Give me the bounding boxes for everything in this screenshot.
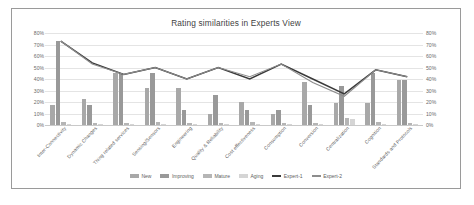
legend-label: Improving [172, 173, 194, 179]
y-axis-tick-label: 50% [426, 65, 436, 71]
y-axis-tick-label: 60% [34, 53, 44, 59]
x-axis-label: Centralization [327, 127, 352, 153]
y-axis-tick-label: 80% [34, 30, 44, 36]
y-axis-tick-label: 20% [34, 99, 44, 105]
expert-lines [45, 33, 423, 125]
legend-label: Expert-1 [284, 173, 303, 179]
x-axis-label: Engineering [172, 127, 194, 150]
y-axis-tick-label: 0% [426, 122, 433, 128]
y-axis-tick-label: 30% [34, 88, 44, 94]
lines-layer [45, 33, 423, 125]
x-axis-label: Quality & Reliability [192, 127, 226, 163]
y-axis-tick-label: 20% [426, 99, 436, 105]
chart-legend: NewImprovingMatureAgingExpert-1Expert-2 [12, 173, 460, 179]
y-axis-tick-label: 70% [426, 42, 436, 48]
x-axis-label: Conversion [299, 127, 320, 149]
y-axis-tick-label: 0% [37, 122, 44, 128]
chart-container: Rating similarities in Experts View 80%7… [11, 8, 461, 189]
y-axis-tick-label: 40% [426, 76, 436, 82]
x-axis-label: Sensing/Sensors [133, 127, 163, 159]
y-axis-tick-label: 40% [34, 76, 44, 82]
x-axis-label: Inter-Connectivity [37, 127, 68, 160]
gridline [45, 125, 423, 126]
y-axis-tick-label: 30% [426, 88, 436, 94]
legend-item-expert-2[interactable]: Expert-2 [312, 173, 342, 179]
legend-label: Expert-2 [323, 173, 342, 179]
legend-item-new[interactable]: New [130, 173, 152, 179]
y-axis-tick-label: 10% [426, 111, 436, 117]
x-axis-label: Cognition [365, 127, 383, 146]
legend-swatch-icon [272, 175, 281, 177]
y-axis-tick-label: 10% [34, 111, 44, 117]
line-expert-2 [61, 41, 408, 96]
y-axis-tick-label: 80% [426, 30, 436, 36]
y-axis-right: 80%70%60%50%40%30%20%10%0% [426, 33, 454, 125]
legend-swatch-icon [203, 174, 212, 177]
y-axis-left: 80%70%60%50%40%30%20%10%0% [16, 33, 44, 125]
chart-title: Rating similarities in Experts View [12, 18, 460, 28]
y-axis-tick-label: 50% [34, 65, 44, 71]
x-axis-label: Thing related services [93, 127, 131, 167]
x-axis-label: Consumption [265, 127, 289, 152]
x-axis-label: Dynamic Changes [68, 127, 100, 161]
y-axis-tick-label: 60% [426, 53, 436, 59]
legend-label: New [141, 173, 151, 179]
legend-item-aging[interactable]: Aging [239, 173, 263, 179]
y-axis-tick-label: 70% [34, 42, 44, 48]
legend-swatch-icon [130, 174, 139, 177]
legend-label: Mature [214, 173, 230, 179]
plot-area [45, 33, 423, 125]
line-expert-1 [61, 41, 408, 94]
legend-swatch-icon [239, 174, 248, 177]
legend-swatch-icon [160, 174, 169, 177]
legend-swatch-icon [312, 175, 321, 177]
x-axis-label: Cost effectiveness [225, 127, 257, 161]
legend-item-expert-1[interactable]: Expert-1 [272, 173, 302, 179]
legend-label: Aging [250, 173, 263, 179]
legend-item-improving[interactable]: Improving [160, 173, 193, 179]
x-axis-categories: Inter-ConnectivityDynamic ChangesThing r… [45, 127, 423, 179]
legend-item-mature[interactable]: Mature [203, 173, 230, 179]
